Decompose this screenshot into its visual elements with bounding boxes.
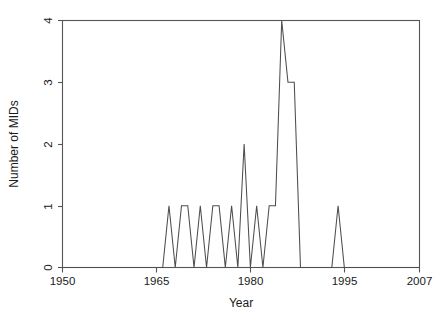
x-axis-ticks	[63, 268, 420, 273]
y-axis-ticks	[58, 21, 63, 268]
y-tick-label-1: 1	[42, 203, 54, 209]
y-axis-tick-labels: 0 1 2 3 4	[42, 17, 54, 271]
plot-frame	[63, 21, 420, 268]
y-tick-label-4: 4	[42, 17, 54, 24]
chart-figure: 0 1 2 3 4 1950 1965 1980 1995 2007 Year …	[0, 0, 439, 321]
x-axis-tick-labels: 1950 1965 1980 1995 2007	[50, 275, 433, 287]
y-tick-label-3: 3	[42, 79, 54, 85]
y-tick-label-2: 2	[42, 141, 54, 147]
x-axis-title: Year	[229, 296, 253, 310]
x-tick-label-1995: 1995	[332, 275, 358, 287]
x-tick-label-1950: 1950	[50, 275, 76, 287]
mids-series-line	[63, 21, 420, 268]
y-axis-title: Number of MIDs	[7, 100, 21, 187]
y-tick-label-0: 0	[42, 264, 54, 270]
x-tick-label-1965: 1965	[144, 275, 170, 287]
x-tick-label-2007: 2007	[407, 275, 433, 287]
x-tick-label-1980: 1980	[238, 275, 264, 287]
mids-line-chart: 0 1 2 3 4 1950 1965 1980 1995 2007 Year …	[0, 0, 439, 321]
